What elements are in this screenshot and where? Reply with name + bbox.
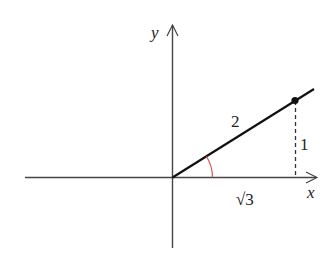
- adjacent-label: √3: [236, 190, 254, 209]
- y-axis-label: y: [149, 23, 159, 42]
- hypotenuse-label: 2: [231, 112, 240, 131]
- coordinate-diagram: y x 2 1 √3: [0, 0, 333, 255]
- opposite-label: 1: [300, 135, 309, 154]
- x-axis-label: x: [306, 183, 315, 202]
- angle-arc: [206, 156, 212, 177]
- x-axis: [25, 172, 317, 183]
- point-marker: [291, 97, 298, 104]
- y-axis: [167, 25, 178, 248]
